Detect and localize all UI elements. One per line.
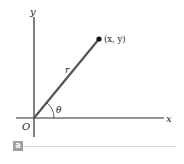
- polar-coordinates-diagram: y x O (x, y) r θ: [0, 0, 184, 164]
- point-label: (x, y): [104, 34, 126, 44]
- angle-label: θ: [56, 105, 62, 115]
- panel-divider: [24, 146, 176, 147]
- y-axis-label: y: [29, 6, 36, 17]
- x-axis-label: x: [166, 113, 172, 124]
- angle-arc: [47, 103, 54, 118]
- point-marker: [96, 36, 101, 41]
- panel-label-badge: a: [13, 141, 23, 151]
- origin-label: O: [22, 121, 30, 132]
- radius-ray: [34, 39, 99, 118]
- radius-label: r: [65, 65, 70, 75]
